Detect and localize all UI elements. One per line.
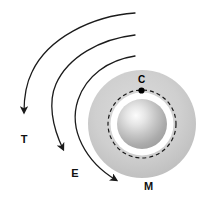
central-body-group — [88, 70, 196, 178]
core-sphere — [117, 99, 167, 149]
trajectory-m-label: M — [144, 180, 153, 192]
point-c-label: C — [138, 74, 145, 85]
figure-container: T E M C — [0, 0, 216, 222]
trajectory-e-label: E — [71, 167, 78, 179]
point-c-group: C — [138, 74, 145, 94]
orbital-diagram: T E M C — [0, 0, 216, 222]
trajectory-t-label: T — [21, 133, 28, 145]
point-c-dot — [138, 87, 144, 93]
